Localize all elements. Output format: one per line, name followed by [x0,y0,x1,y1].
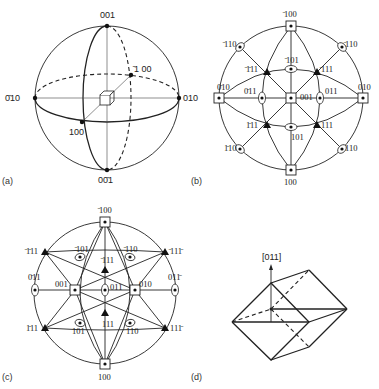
label-b-i-ll: 1̄11 [246,120,258,130]
label-001: 001 [100,10,115,20]
pole-00-1 [105,168,109,172]
pole-010 [177,96,181,100]
label-b-bottom: 100 [284,177,297,187]
label-c-bottom: 100 [98,372,111,382]
label-b-i-left: 0̄11 [244,86,256,96]
label-c-i-ur: ̄110 [123,244,137,254]
label-b-i-bottom: 101 [291,132,304,142]
label-c-top: ̄100 [97,205,112,215]
label-b-ul: ̄110 [222,39,236,49]
pole-001 [105,24,109,28]
label-b-lr: 110 [345,143,357,153]
crystallography-figure: 001 00̄1 0̄10 010 100 ̄1 00 (a) [0,0,379,389]
panel-c-stereogram-011: ̄100 100 0̄11 011̄ 011 001 010 ̄1̄11 ̄11… [2,205,184,382]
label-b-center: 001 [300,92,313,102]
label-c-i-top: ̄111 [100,255,114,265]
label-c-right: 011̄ [168,272,182,282]
label-c-i-ll: 101 [72,326,85,336]
pole-100 [80,120,84,124]
label--100: ̄1 00 [132,64,152,74]
label-b-right: 010 [358,82,371,92]
panel-d-rhombic-dodecahedron: [011] (d) [191,252,347,382]
label-c-ll: 1̄11 [26,323,38,333]
label-c-l-sq: 001 [55,279,68,289]
label-100: 100 [69,127,84,137]
label-b-top: ̄100 [282,9,297,19]
label-c-ur: ̄111̄ [168,246,184,256]
label-c-center: 011 [110,282,122,292]
panel-a-reference-sphere: 001 00̄1 0̄10 010 100 ̄1 00 (a) [2,10,198,186]
label-c-lr: 111̄ [170,323,184,333]
label-c-left: 0̄11 [28,272,40,282]
label-b-left: 0̄10 [217,82,230,92]
label-b-i-top: ̄101 [284,55,299,65]
label-b-i-ur: ̄111 [319,64,333,74]
label-c-i-bottom: 111 [102,319,114,329]
label-00-1: 00̄1 [98,175,113,185]
label-b-i-ul: ̄1̄11 [244,64,258,74]
pole--100 [129,73,133,77]
caption-b: (b) [191,176,202,186]
label-010: 010 [183,93,198,103]
label-b-i-lr: 111 [321,120,333,130]
label-c-r-sq: 010 [139,279,152,289]
label-b-ur: ̄110 [343,39,357,49]
arrow-head-icon [269,264,273,270]
label-c-i-lr: 110 [126,326,138,336]
label-b-ll: 1̄10 [224,143,236,153]
label-c-ul: ̄1̄11 [24,246,38,256]
panel-b-stereogram-001: ̄100 100 0̄10 010 001 ̄110 ̄110 1̄10 110… [191,9,371,187]
caption-c: (c) [2,372,13,382]
label-0-10: 0̄10 [5,93,20,103]
pole-0-10 [33,96,37,100]
caption-a: (a) [2,176,13,186]
label-b-i-right: 011 [325,86,337,96]
label-c-i-ul: ̄101 [74,244,89,254]
caption-d: (d) [191,372,202,382]
label-axis-011: [011] [262,252,281,262]
